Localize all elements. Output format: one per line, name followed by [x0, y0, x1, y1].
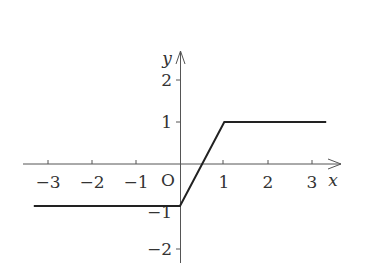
x-tick-label-neg3: −3	[35, 172, 60, 192]
x-tick-label-2: 2	[263, 172, 274, 192]
x-tick-label-neg2: −2	[79, 172, 104, 192]
x-tick-label-neg1: −1	[123, 172, 148, 192]
function-graph: −3 −2 −1 O 1 2 3 x 2 1 −1 −2 y	[0, 0, 367, 270]
x-axis-label: x	[328, 170, 338, 190]
x-tick-label-3: 3	[307, 172, 318, 192]
origin-label: O	[161, 170, 175, 190]
y-tick-label-1: 1	[161, 112, 172, 132]
y-tick-label-2: 2	[161, 70, 172, 90]
y-axis-label: y	[161, 48, 172, 68]
y-tick-label-neg2: −2	[147, 239, 172, 259]
x-tick-label-1: 1	[219, 172, 230, 192]
